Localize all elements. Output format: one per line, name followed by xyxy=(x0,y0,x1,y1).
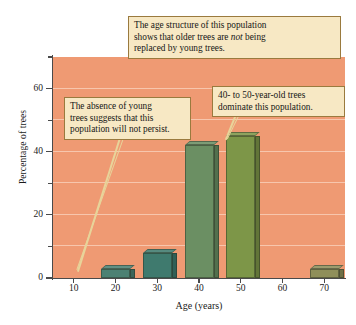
y-tick-20 xyxy=(46,214,52,215)
bar-front-face xyxy=(143,253,172,278)
x-tick-label-30: 30 xyxy=(142,283,172,293)
bar-age-50 xyxy=(226,136,255,278)
annotation-top-line3: replaced by young trees. xyxy=(134,43,225,53)
annotation-absence-young-trees: The absence of young trees suggests that… xyxy=(64,97,191,140)
x-tick-label-50: 50 xyxy=(226,283,256,293)
bar-side-face xyxy=(214,145,219,278)
annotation-left-line1: The absence of young xyxy=(70,101,152,111)
bar-front-face xyxy=(226,136,255,278)
y-tick-minor-50 xyxy=(48,120,52,121)
annotation-right-line2: dominate this population. xyxy=(218,102,313,112)
annotation-age-structure: The age structure of this population sho… xyxy=(128,16,341,59)
x-tick-label-40: 40 xyxy=(184,283,214,293)
bar-top-face xyxy=(310,265,344,269)
x-axis-title: Age (years) xyxy=(53,300,345,311)
bar-chart-figure: 0204060 10203040506070 Percentage of tre… xyxy=(0,0,356,325)
x-tick-label-70: 70 xyxy=(309,283,339,293)
annotation-dominant-age-class: 40- to 50-year-old trees dominate this p… xyxy=(212,86,345,117)
annotation-left-line3: population will not persist. xyxy=(70,124,170,134)
annotation-top-line1: The age structure of this population xyxy=(134,20,266,30)
bar-age-30 xyxy=(143,253,172,278)
y-tick-40 xyxy=(46,151,52,152)
bar-front-face xyxy=(185,145,214,278)
y-tick-0 xyxy=(46,277,52,278)
y-axis-line xyxy=(52,55,53,280)
annotation-top-line2a: shows that older trees are xyxy=(134,32,231,42)
annotation-top-emphasis: not xyxy=(231,32,243,42)
bar-top-face xyxy=(101,265,135,269)
y-tick-minor-70 xyxy=(48,56,52,57)
annotation-right-line1: 40- to 50-year-old trees xyxy=(218,90,305,100)
bar-side-face xyxy=(255,136,260,278)
bar-age-40 xyxy=(185,145,214,278)
y-tick-label-0: 0 xyxy=(0,272,43,282)
x-tick-label-20: 20 xyxy=(101,283,131,293)
y-tick-minor-30 xyxy=(48,183,52,184)
x-tick-label-60: 60 xyxy=(267,283,297,293)
bar-top-face xyxy=(185,141,219,145)
bar-top-face xyxy=(143,249,177,253)
y-tick-minor-10 xyxy=(48,246,52,247)
annotation-left-line2: trees suggests that this xyxy=(70,113,153,123)
y-axis-title: Percentage of trees xyxy=(18,77,28,217)
x-tick-label-10: 10 xyxy=(59,283,89,293)
bar-side-face xyxy=(172,253,177,278)
annotation-top-line2b: being xyxy=(243,32,266,42)
y-tick-60 xyxy=(46,88,52,89)
